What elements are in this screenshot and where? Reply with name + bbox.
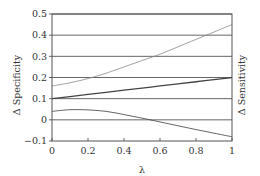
y-tick-label: −0.1 <box>24 135 47 146</box>
horizontal-gridlines <box>52 14 232 120</box>
x-tick-label: 0.2 <box>80 145 95 156</box>
x-tick-label: 1 <box>229 145 235 156</box>
y-tick-label: 0.2 <box>32 72 47 83</box>
x-tick-label: 0 <box>49 145 55 156</box>
x-tick-label: 0.4 <box>116 145 131 156</box>
x-axis-title: λ <box>139 164 145 175</box>
y-tick-label: 0 <box>41 114 47 125</box>
y-tick-label: 0.3 <box>32 51 47 62</box>
series-line <box>52 110 232 137</box>
y-tick-label: 0.4 <box>32 29 47 40</box>
series-line <box>52 25 232 86</box>
y-axis-title-left: Δ Specificity <box>11 54 22 115</box>
y-axis-title-right: Δ Sensitivity <box>236 54 247 115</box>
x-tick-label: 0.6 <box>152 145 167 156</box>
line-chart: −0.100.10.20.30.40.5 00.20.40.60.81 λ Δ … <box>0 0 260 176</box>
y-tick-label: 0.1 <box>32 93 47 104</box>
x-tick-label: 0.8 <box>188 145 203 156</box>
x-tick-labels: 00.20.40.60.81 <box>49 145 235 156</box>
y-tick-labels: −0.100.10.20.30.40.5 <box>24 8 47 146</box>
y-tick-label: 0.5 <box>32 8 47 19</box>
